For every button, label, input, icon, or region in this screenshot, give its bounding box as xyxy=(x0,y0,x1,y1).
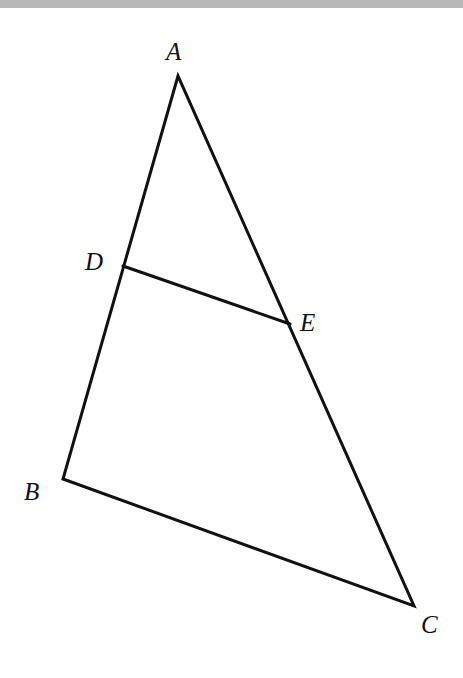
label-e: E xyxy=(299,309,315,336)
label-a: A xyxy=(164,38,182,65)
triangle-abc xyxy=(63,76,414,606)
label-b: B xyxy=(24,478,39,505)
label-d: D xyxy=(84,248,103,275)
triangle-diagram: A D E B C xyxy=(0,0,463,678)
label-c: C xyxy=(421,611,438,638)
